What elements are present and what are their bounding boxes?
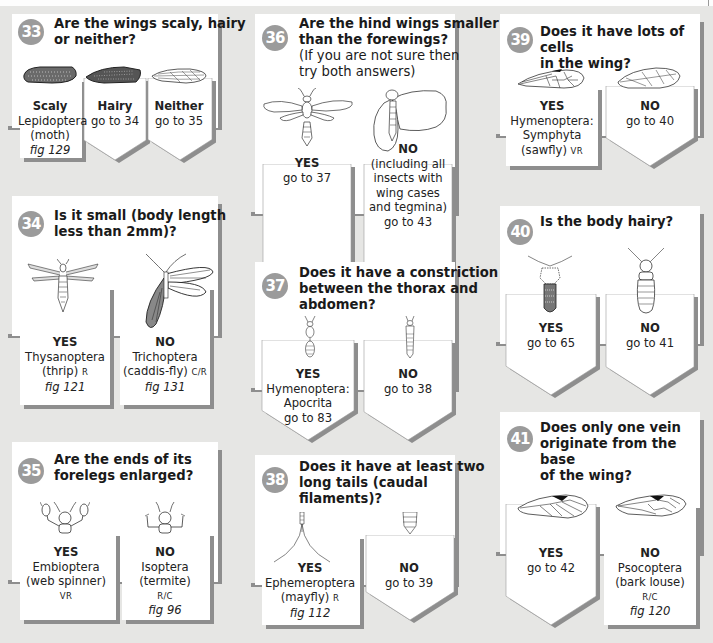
option-no[interactable]: NO go to 38: [364, 367, 452, 396]
smooth-body-illustration: [622, 248, 670, 320]
option-no[interactable]: NO go to 39: [366, 561, 452, 590]
question-text: Does it have at least two long tails (ca…: [299, 459, 485, 507]
option-yes[interactable]: YES go to 42: [506, 546, 596, 575]
question-text: Does it have a constriction between the …: [299, 265, 498, 313]
option-no[interactable]: NO go to 40: [606, 99, 694, 128]
option-yes[interactable]: YES Hymenoptera: Symphyta (sawfly) VR: [506, 99, 598, 158]
question-text: Are the hind wings smaller than the fore…: [299, 16, 499, 80]
abundance-code: R/C: [122, 589, 208, 604]
option-yes[interactable]: YES go to 65: [506, 321, 596, 350]
question-text: Is the body hairy?: [540, 214, 673, 230]
option-yes[interactable]: YES go to 37: [264, 156, 350, 185]
option-yes[interactable]: YES Hymenoptera: Apocrita go to 83: [262, 367, 354, 425]
abundance-code: VR: [18, 589, 114, 604]
option-yes[interactable]: YES Ephemeroptera (mayfly) R fig 112: [262, 561, 358, 620]
thrip-illustration: [26, 258, 102, 314]
step-number-badge: 34: [18, 211, 44, 237]
abundance-code: C/R: [191, 367, 207, 377]
step-number-badge: 36: [262, 25, 288, 51]
question-text: Is it small (body length less than 2mm)?: [54, 208, 226, 240]
caddis-fly-illustration: [140, 252, 220, 338]
termite-head-illustration: [140, 502, 190, 538]
constricted-body-illustration: [300, 316, 320, 360]
step-number-badge: 35: [18, 458, 44, 484]
scaly-wing-illustration: [22, 64, 78, 86]
step-number-badge: 39: [507, 27, 533, 53]
step-number-badge: 41: [507, 426, 533, 452]
option-no[interactable]: NO Psocoptera (bark louse) R/C fig 120: [604, 546, 696, 619]
step-number-badge: 33: [18, 19, 44, 45]
step-number-badge: 38: [262, 467, 288, 493]
step-number-badge: 37: [262, 273, 288, 299]
option-no[interactable]: NO (including all insects with wing case…: [364, 142, 452, 229]
option-neither[interactable]: Neither go to 35: [148, 99, 210, 128]
hairy-wing-illustration: [84, 64, 144, 86]
caudal-filaments-illustration: [272, 512, 332, 564]
option-no[interactable]: NO Trichoptera (caddis-fly) C/R fig 131: [120, 335, 210, 394]
option-hairy[interactable]: Hairy go to 34: [84, 99, 146, 128]
unconstricted-body-illustration: [400, 316, 420, 360]
multi-vein-wing-illustration: [614, 492, 690, 520]
card-shadow: [700, 214, 704, 344]
option-no[interactable]: NO Isoptera (termite) R/C fig 96: [122, 545, 208, 618]
step-number-badge: 40: [507, 219, 533, 245]
wasp-illustration: [260, 88, 356, 148]
one-vein-wing-illustration: [516, 492, 592, 520]
abundance-code: R: [333, 593, 339, 603]
option-scaly[interactable]: Scaly Lepidoptera (moth) fig 129: [18, 99, 82, 157]
abundance-code: R: [82, 367, 88, 377]
web-spinner-head-illustration: [40, 502, 90, 538]
many-cell-wing-illustration: [516, 66, 588, 92]
few-cell-wing-illustration: [616, 66, 684, 92]
abundance-code: R/C: [604, 590, 696, 605]
question-text: Are the wings scaly, hairy or neither?: [54, 16, 246, 48]
question-text: Does only one vein originate from the ba…: [540, 420, 713, 484]
option-yes[interactable]: YES Thysanoptera (thrip) R fig 121: [20, 335, 110, 394]
no-tails-illustration: [398, 512, 422, 536]
abundance-code: VR: [571, 146, 583, 156]
option-yes[interactable]: YES Embioptera (web spinner) VR: [18, 545, 114, 603]
option-no[interactable]: NO go to 41: [606, 321, 694, 350]
card-shadow: [218, 450, 222, 582]
hairy-body-illustration: [524, 254, 576, 318]
question-text: Does it have lots of cells in the wing?: [540, 24, 713, 72]
question-text: Are the ends of its forelegs enlarged?: [54, 452, 193, 484]
veined-wing-illustration: [150, 66, 208, 86]
